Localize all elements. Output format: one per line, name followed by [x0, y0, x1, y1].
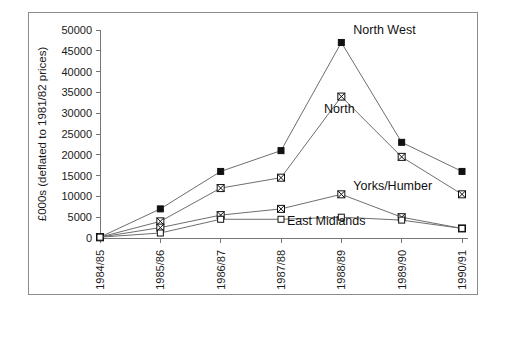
x-tick-label: 1990/91	[456, 250, 468, 290]
x-tick-label: 1987/88	[275, 250, 287, 290]
series-annotation-label: North	[324, 102, 355, 116]
y-tick-label: 0	[86, 232, 92, 244]
data-point-marker	[278, 216, 284, 222]
data-point-marker	[278, 148, 284, 154]
figure-container: £000s (deflated to 1981/82 prices)050001…	[0, 0, 505, 339]
series-annotation-label: Yorks/Humber	[353, 179, 432, 193]
data-point-marker	[157, 230, 163, 236]
y-tick-label: 15000	[61, 170, 92, 182]
y-axis-ticks: 0500010000150002000025000300003500040000…	[61, 24, 100, 244]
y-tick-label: 40000	[61, 66, 92, 78]
y-tick-label: 5000	[68, 211, 92, 223]
data-point-marker	[399, 139, 405, 145]
y-tick-label: 25000	[61, 128, 92, 140]
data-point-marker	[459, 168, 465, 174]
x-tick-label: 1989/90	[396, 250, 408, 290]
x-axis-ticks: 1984/851985/861986/871987/881988/891989/…	[94, 238, 468, 290]
series-annotation-label: East Midlands	[287, 214, 366, 228]
line-chart: £000s (deflated to 1981/82 prices)050001…	[0, 0, 505, 339]
data-point-marker	[218, 216, 224, 222]
y-tick-label: 10000	[61, 190, 92, 202]
series-annotation-label: North West	[353, 23, 416, 37]
x-tick-label: 1988/89	[335, 250, 347, 290]
y-tick-label: 35000	[61, 86, 92, 98]
y-tick-label: 20000	[61, 149, 92, 161]
data-point-marker	[338, 39, 344, 45]
data-point-marker	[459, 225, 465, 231]
data-point-marker	[97, 234, 103, 240]
y-axis-label: £000s (deflated to 1981/82 prices)	[36, 47, 48, 222]
y-tick-label: 45000	[61, 45, 92, 57]
data-point-marker	[157, 206, 163, 212]
series-line	[100, 194, 462, 237]
x-tick-label: 1986/87	[215, 250, 227, 290]
x-tick-label: 1985/86	[154, 250, 166, 290]
data-point-marker	[399, 217, 405, 223]
y-tick-label: 30000	[61, 107, 92, 119]
data-point-marker	[218, 168, 224, 174]
series-east-midlands	[97, 214, 465, 240]
y-tick-label: 50000	[61, 24, 92, 36]
x-tick-label: 1984/85	[94, 250, 106, 290]
